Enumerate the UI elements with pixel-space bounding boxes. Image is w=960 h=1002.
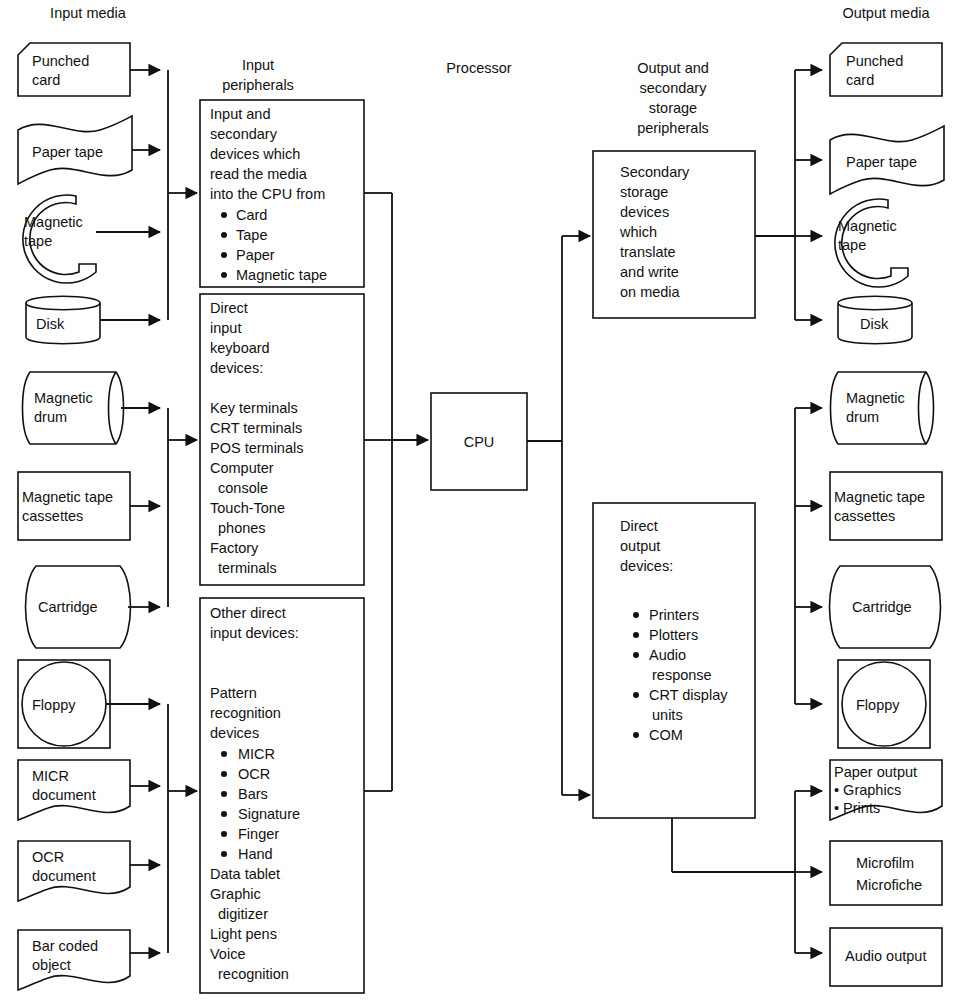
- box-line: Magnetic tape: [236, 267, 327, 283]
- input-peripheral-box-other-direct-input-devices[interactable]: Other direct input devices: Pattern reco…: [200, 598, 364, 993]
- shape-label: Magnetic: [24, 214, 83, 230]
- heading-input-peripherals-line2: peripherals: [222, 77, 294, 93]
- box-line: input devices:: [210, 625, 299, 641]
- box-line: Paper: [236, 247, 275, 263]
- input-peripheral-box-direct-input-keyboard-devices[interactable]: Direct input keyboard devices: Key termi…: [200, 294, 364, 585]
- output-peripheral-box-secondary-storage-devices[interactable]: Secondary storage devices which translat…: [593, 151, 755, 318]
- bullet-dot-icon: [633, 632, 639, 638]
- box-line: Data tablet: [210, 866, 280, 882]
- input-to-cpu-connectors: [364, 193, 428, 791]
- shape-label: Magnetic: [838, 218, 897, 234]
- shape-label: drum: [846, 409, 879, 425]
- shape-label: OCR: [32, 849, 64, 865]
- output-media-shape-paper-output[interactable]: Paper output • Graphics • Prints: [830, 760, 942, 820]
- box-line: OCR: [238, 766, 270, 782]
- input-media-shape-floppy[interactable]: Floppy: [18, 660, 110, 748]
- heading-output-peripherals-line1: Output and: [637, 60, 709, 76]
- input-media-shape-magnetic-tape[interactable]: Magnetic tape: [23, 195, 96, 283]
- input-media-shape-micr-document[interactable]: MICR document: [18, 760, 130, 820]
- heading-output-peripherals-line4: peripherals: [637, 120, 709, 136]
- shape-label: Magnetic: [846, 390, 905, 406]
- cpu-to-output-connectors: [527, 236, 590, 795]
- input-media-shape-magnetic-tape-cassettes[interactable]: Magnetic tape cassettes: [18, 472, 130, 540]
- cpu-box[interactable]: CPU: [431, 393, 527, 490]
- shape-label: Punched: [846, 53, 903, 69]
- input-peripheral-box-input-secondary-devices[interactable]: Input and secondary devices which read t…: [200, 100, 364, 287]
- shape-label: Floppy: [856, 697, 900, 713]
- bullet-dot-icon: [221, 252, 227, 258]
- box-line: devices: [620, 204, 669, 220]
- output-media-shape-cartridge[interactable]: Cartridge: [830, 566, 941, 648]
- input-media-shape-paper-tape[interactable]: Paper tape: [18, 116, 132, 184]
- box-line: CRT display: [649, 687, 728, 703]
- box-line: into the CPU from: [210, 186, 325, 202]
- shape-label: document: [32, 787, 96, 803]
- box-line: Factory: [210, 540, 259, 556]
- bullet-dot-icon: [221, 272, 227, 278]
- shape-label: Paper output: [834, 764, 917, 780]
- output-media-shape-magnetic-tape[interactable]: Magnetic tape: [835, 199, 908, 287]
- box-line: units: [652, 707, 683, 723]
- input-media-shape-bar-coded-object[interactable]: Bar coded object: [18, 930, 130, 990]
- output-peripheral-box-direct-output-devices[interactable]: Direct output devices: Printers Plotters…: [593, 503, 755, 818]
- output-media-shape-magnetic-tape-cassettes[interactable]: Magnetic tape cassettes: [830, 472, 942, 540]
- box-line: Light pens: [210, 926, 277, 942]
- bullet-dot-icon: [633, 692, 639, 698]
- box-line: devices:: [210, 360, 263, 376]
- box-line: translate: [620, 244, 676, 260]
- box-line: recognition: [218, 966, 289, 982]
- box-line: Printers: [649, 607, 699, 623]
- bullet-dot-icon: [221, 831, 227, 837]
- box-line: Touch-Tone: [210, 500, 285, 516]
- output-media-shape-microfilm[interactable]: Microfilm Microfiche: [830, 841, 942, 905]
- bullet-dot-icon: [221, 791, 227, 797]
- box-line: Other direct: [210, 605, 286, 621]
- heading-processor: Processor: [446, 60, 511, 76]
- box-line: Computer: [210, 460, 274, 476]
- heading-output-peripherals-line2: secondary: [640, 80, 708, 96]
- bullet-dot-icon: [633, 732, 639, 738]
- box-line: Audio: [649, 647, 686, 663]
- shape-label: Punched: [32, 53, 89, 69]
- box-line: console: [218, 480, 268, 496]
- shape-label: document: [32, 868, 96, 884]
- output-media-shape-floppy[interactable]: Floppy: [838, 660, 930, 748]
- bullet-dot-icon: [221, 212, 227, 218]
- shape-label: cassettes: [22, 508, 83, 524]
- box-line: Secondary: [620, 164, 690, 180]
- bullet-dot-icon: [221, 232, 227, 238]
- output-media-shape-magnetic-drum[interactable]: Magnetic drum: [831, 372, 934, 444]
- input-media-shape-disk[interactable]: Disk: [26, 296, 100, 344]
- shape-label: Cartridge: [38, 599, 98, 615]
- bullet-dot-icon: [221, 851, 227, 857]
- shape-label: Paper tape: [32, 144, 103, 160]
- box-line: Graphic: [210, 886, 261, 902]
- output-media-shape-paper-tape[interactable]: Paper tape: [830, 126, 944, 194]
- input-media-shape-punched-card[interactable]: Punched card: [18, 43, 130, 96]
- box-line: and write: [620, 264, 679, 280]
- shape-label: Paper tape: [846, 154, 917, 170]
- box-line: terminals: [218, 560, 277, 576]
- output-media-shape-disk[interactable]: Disk: [838, 296, 912, 344]
- input-media-shape-magnetic-drum[interactable]: Magnetic drum: [23, 372, 124, 444]
- output-media-shape-audio-output[interactable]: Audio output: [830, 928, 942, 986]
- box-line: Voice: [210, 946, 245, 962]
- box-line: which: [619, 224, 657, 240]
- heading-output-peripherals-line3: storage: [649, 100, 697, 116]
- input-media-shape-ocr-document[interactable]: OCR document: [18, 841, 130, 901]
- output-media-shape-punched-card[interactable]: Punched card: [830, 43, 942, 96]
- box-line: Bars: [238, 786, 268, 802]
- box-line: phones: [218, 520, 266, 536]
- shape-label: Magnetic tape: [22, 489, 113, 505]
- box-line: Signature: [238, 806, 300, 822]
- box-line: Card: [236, 207, 267, 223]
- box-line: MICR: [238, 746, 275, 762]
- shape-label: Magnetic tape: [834, 489, 925, 505]
- input-media-shape-cartridge[interactable]: Cartridge: [26, 566, 131, 648]
- box-line: read the media: [210, 166, 308, 182]
- box-line: response: [652, 667, 712, 683]
- cpu-label: CPU: [464, 434, 495, 450]
- shape-label: Microfilm: [856, 855, 914, 871]
- box-line: POS terminals: [210, 440, 303, 456]
- system-io-diagram: Input media Input peripherals Processor …: [0, 0, 960, 1002]
